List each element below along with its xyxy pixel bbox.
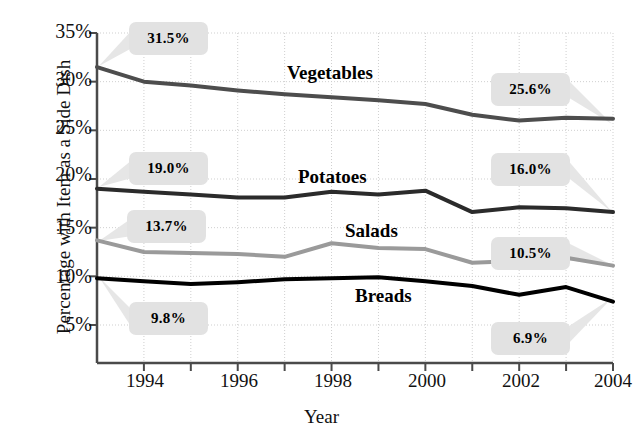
callout-salads-end: 10.5% <box>491 237 570 270</box>
series-label-salads: Salads <box>345 220 398 242</box>
series-label-breads: Breads <box>355 285 412 307</box>
y-tick-label-35: 35% <box>22 20 92 43</box>
y-tick-label-30: 30% <box>22 68 92 91</box>
x-axis-title: Year <box>0 406 643 428</box>
y-tick-label-10: 10% <box>22 265 92 288</box>
series-label-potatoes: Potatoes <box>298 166 367 188</box>
y-tick-label-25: 25% <box>22 116 92 139</box>
y-tick-label-5: 5% <box>22 313 92 336</box>
callout-breads-start: 9.8% <box>129 302 208 335</box>
callout-breads-end: 6.9% <box>491 322 570 355</box>
callout-salads-start: 13.7% <box>127 210 206 243</box>
callout-vegetables-start: 31.5% <box>129 22 208 55</box>
callout-vegetables-end: 25.6% <box>491 73 570 106</box>
x-tick-label-1994: 1994 <box>110 370 180 392</box>
callout-potatoes-end: 16.0% <box>491 153 570 186</box>
x-tick-label-2004: 2004 <box>578 370 643 392</box>
x-tick-label-1996: 1996 <box>204 370 274 392</box>
series-label-vegetables: Vegetables <box>287 62 373 84</box>
x-tick-label-2000: 2000 <box>392 370 462 392</box>
y-tick-label-20: 20% <box>22 163 92 186</box>
chart-root: Percentage with Item as a Side Dish Year… <box>0 0 643 440</box>
callout-potatoes-start: 19.0% <box>129 152 208 185</box>
x-tick-label-1998: 1998 <box>298 370 368 392</box>
y-tick-label-15: 15% <box>22 216 92 239</box>
x-tick-label-2002: 2002 <box>486 370 556 392</box>
